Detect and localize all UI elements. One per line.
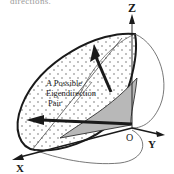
y-arrowhead-icon: [156, 131, 165, 137]
x-arrowhead-icon: [12, 154, 24, 160]
z-arrowhead-icon: [129, 14, 135, 24]
eigendirection-diagram: Z Y X O A Possible Eigendirection Pair: [0, 0, 174, 174]
z-axis-label: Z: [128, 1, 136, 15]
annotation-line2: Eigendirection: [46, 88, 97, 98]
y-axis-label: Y: [148, 138, 156, 150]
y-axis: [132, 128, 158, 134]
x-axis-label: X: [16, 162, 24, 174]
annotation-line1: A Possible: [46, 78, 82, 88]
annotation-line3: Pair: [48, 98, 62, 108]
origin-label: O: [126, 132, 133, 143]
